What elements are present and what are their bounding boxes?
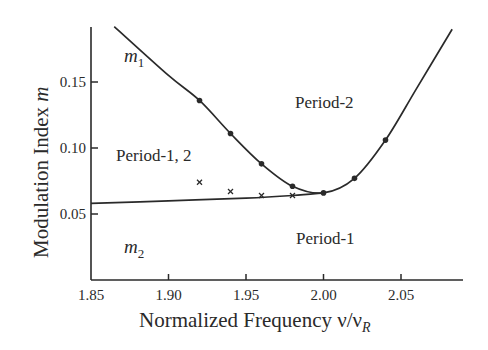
- period2-label: Period-2: [295, 93, 354, 112]
- dot-marker: [383, 137, 389, 143]
- period12-label: Period-1, 2: [116, 146, 192, 165]
- dot-marker: [352, 176, 358, 182]
- x-tick-label: 1.85: [78, 287, 104, 303]
- dot-marker: [228, 131, 234, 137]
- curve-m2: [91, 193, 324, 204]
- m1-label: m1: [124, 45, 144, 70]
- y-tick-label: 0.05: [60, 206, 86, 222]
- dot-marker: [197, 98, 203, 104]
- y-tick-label: 0.15: [60, 74, 86, 90]
- chart: 1.851.901.952.002.05 0.050.100.15 m1 m2 …: [0, 0, 488, 350]
- x-axis-title: Normalized Frequency ν/νR: [139, 308, 371, 335]
- dot-marker: [259, 161, 265, 167]
- y-tick-label: 0.10: [60, 140, 86, 156]
- x-ticks: 1.851.901.952.002.05: [78, 274, 414, 303]
- x-tick-label: 2.05: [388, 287, 414, 303]
- period1-label: Period-1: [296, 229, 355, 248]
- markers: [197, 98, 389, 198]
- curves: [91, 27, 452, 204]
- m2-label: m2: [124, 236, 144, 261]
- dot-marker: [321, 190, 327, 196]
- cross-marker: [228, 189, 233, 194]
- dot-marker: [290, 183, 296, 189]
- y-axis-title: Modulation Index m: [29, 87, 53, 258]
- x-tick-label: 1.90: [155, 287, 181, 303]
- cross-marker: [197, 180, 202, 185]
- curve-m1: [114, 27, 452, 194]
- x-tick-label: 1.95: [233, 287, 259, 303]
- y-ticks: 0.050.100.15: [60, 74, 98, 222]
- x-tick-label: 2.00: [310, 287, 336, 303]
